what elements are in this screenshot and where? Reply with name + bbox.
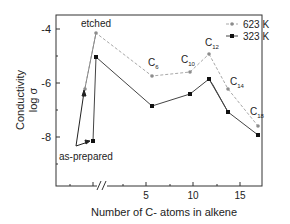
c14-label: C14 bbox=[230, 76, 245, 89]
as-prepared-arrows bbox=[76, 90, 90, 146]
x-axis bbox=[70, 182, 240, 186]
y-tick-label: -4 bbox=[41, 23, 51, 35]
y-tick-label: -6 bbox=[41, 77, 51, 89]
etched-label: etched bbox=[81, 18, 111, 29]
series-323k bbox=[91, 55, 260, 143]
legend-623k: 623 K bbox=[243, 19, 269, 30]
c12-label: C12 bbox=[205, 37, 220, 50]
c6-label: C6 bbox=[148, 57, 159, 70]
as-prepared-label: as-prepared bbox=[59, 151, 113, 162]
y-axis-title: Conductivity bbox=[14, 70, 26, 130]
y-tick-label: -8 bbox=[41, 131, 51, 143]
legend-323k: 323 K bbox=[243, 31, 269, 42]
y-axis bbox=[56, 29, 60, 164]
legend: 623 K 323 K bbox=[226, 19, 269, 42]
x-axis-title: Number of C- atoms in alkene bbox=[91, 206, 237, 218]
y-axis-title-sub: log σ bbox=[27, 88, 39, 113]
axis-break-icon bbox=[97, 181, 107, 190]
c10-label: C10 bbox=[181, 54, 196, 67]
conductivity-chart: -4 -6 -8 5 10 15 Number of C- atoms in a… bbox=[0, 0, 290, 224]
x-tick-label: 15 bbox=[234, 190, 246, 201]
x-tick-label: 5 bbox=[143, 190, 149, 201]
x-tick-label: 10 bbox=[187, 190, 199, 201]
